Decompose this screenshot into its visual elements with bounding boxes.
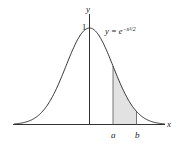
equation-label: y = e−x²/2	[104, 26, 136, 37]
equation-lhs: y = e	[104, 26, 123, 36]
bound-a-label: a	[111, 130, 116, 140]
equation-exponent: −x²/2	[123, 26, 136, 32]
bound-b-label: b	[135, 130, 140, 140]
x-axis-label: x	[166, 119, 171, 129]
bell-curve-diagram: y x 1 a b y = e−x²/2	[0, 0, 182, 145]
peak-label: 1	[82, 22, 86, 32]
y-axis-label: y	[85, 4, 90, 14]
